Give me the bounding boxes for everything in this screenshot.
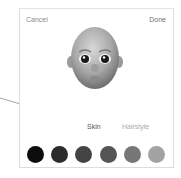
skin-swatch-5[interactable] (124, 146, 141, 163)
memoji-head-icon (67, 26, 123, 90)
done-button[interactable]: Done (149, 16, 166, 23)
tab-hairstyle[interactable]: Hairstyle (122, 123, 149, 130)
avatar-editor-panel: Cancel Done Skin Hairstyle (19, 8, 174, 168)
cancel-button[interactable]: Cancel (26, 16, 48, 23)
skin-swatch-6[interactable] (148, 146, 165, 163)
skin-swatch-2[interactable] (51, 146, 68, 163)
skin-swatch-4[interactable] (100, 146, 117, 163)
tab-skin[interactable]: Skin (87, 123, 101, 130)
skin-color-swatches (27, 146, 170, 164)
skin-swatch-3[interactable] (75, 146, 92, 163)
skin-swatch-1[interactable] (27, 146, 44, 163)
